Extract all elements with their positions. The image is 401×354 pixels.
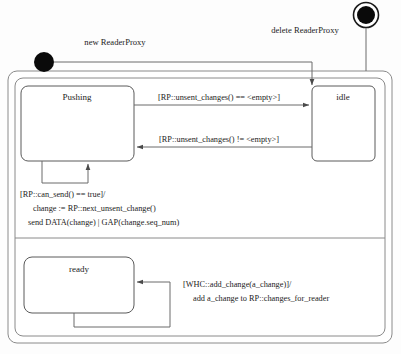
final-transition-label: delete ReaderProxy [271,25,339,35]
transition-ready-self-line2: add a_change to RP::changes_for_reader [193,294,329,303]
transition-pushing-self-line1: [RP::can_send() == true]/ [20,190,106,199]
state-pushing-label: Pushing [62,92,92,102]
initial-transition-label: new ReaderProxy [84,37,146,47]
transition-pushing-self-line3: send DATA(change) | GAP(change.seq_num) [28,218,179,227]
initial-pseudostate [34,52,54,72]
final-state-core [357,6,375,24]
transition-pushing-to-idle-label: [RP::unsent_changes() == <empty>] [158,93,280,102]
state-idle-label: idle [336,92,350,102]
transition-idle-to-pushing-label: [RP::unsent_changes() != <empty>] [159,135,279,144]
diagram-canvas: new ReaderProxy delete ReaderProxy Pushi… [0,0,401,354]
transition-pushing-self-line2: change := RP::next_unsent_change() [33,204,156,213]
transition-ready-self-line1: [WHC::add_change(a_change)]/ [183,280,292,289]
uml-state-diagram: new ReaderProxy delete ReaderProxy Pushi… [0,0,401,354]
state-ready-label: ready [69,264,89,274]
